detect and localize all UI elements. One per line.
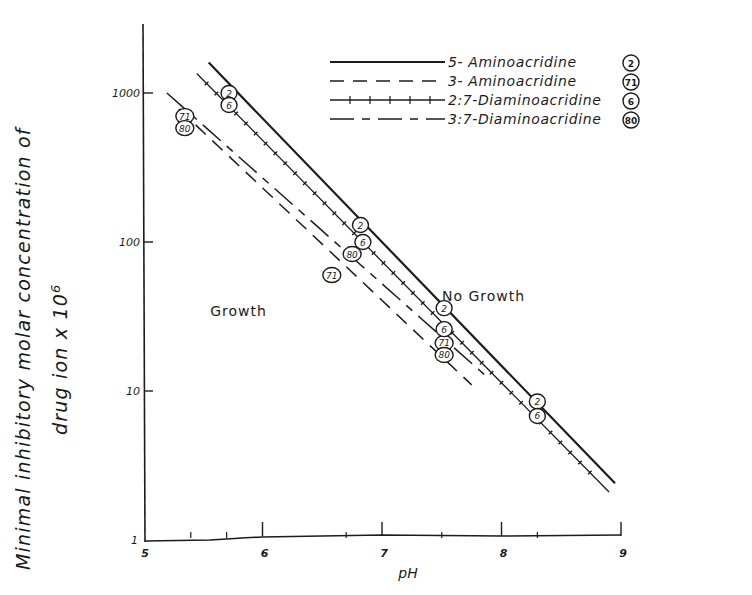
legend-item-2: 5- Aminoacridine2 xyxy=(330,54,639,71)
y-axis-line xyxy=(143,24,145,542)
point-markers: 22227171716666808080 xyxy=(176,86,546,424)
svg-text:80: 80 xyxy=(179,124,191,134)
legend-item-6: 2:7-Diaminoacridine6 xyxy=(330,92,639,109)
y-tick-label: 10 xyxy=(126,385,140,398)
svg-text:2: 2 xyxy=(534,397,540,407)
x-tick-label: 6 xyxy=(261,547,269,560)
y-tick-label: 1 xyxy=(131,534,138,547)
svg-text:6: 6 xyxy=(534,411,540,421)
legend-label: 3- Aminoacridine xyxy=(448,73,577,89)
point-marker-6: 6 xyxy=(221,98,237,113)
svg-text:2: 2 xyxy=(358,221,364,231)
y-axis-label-line1: Minimal inhibitory molar concentration o… xyxy=(12,127,34,570)
point-marker-6: 6 xyxy=(436,322,452,337)
x-axis-line xyxy=(145,535,621,541)
point-marker-80: 80 xyxy=(343,247,361,262)
point-marker-6: 6 xyxy=(529,408,545,423)
x-tick-label: 7 xyxy=(380,547,388,560)
legend-item-80: 3:7-Diaminoacridine80 xyxy=(330,111,639,128)
x-tick-label: 9 xyxy=(619,547,627,560)
y-axis-label-exponent: 6 xyxy=(48,283,63,292)
svg-text:6: 6 xyxy=(226,101,232,111)
point-marker-2: 2 xyxy=(352,218,368,233)
x-tick-label: 8 xyxy=(500,547,508,560)
legend-item-71: 3- Aminoacridine71 xyxy=(330,73,639,90)
point-marker-71: 71 xyxy=(323,268,341,283)
svg-text:71: 71 xyxy=(625,78,638,88)
point-marker-80: 80 xyxy=(435,347,453,362)
legend-label: 3:7-Diaminoacridine xyxy=(448,111,601,127)
svg-text:80: 80 xyxy=(438,350,450,360)
region-label-no-growth: No Growth xyxy=(442,288,525,304)
svg-text:71: 71 xyxy=(326,271,337,281)
point-marker-2: 2 xyxy=(529,394,545,409)
y-tick-label: 1000 xyxy=(112,87,140,100)
svg-text:2: 2 xyxy=(628,59,634,69)
point-marker-80: 80 xyxy=(176,121,194,136)
x-tick-label: 5 xyxy=(141,547,149,560)
svg-text:6: 6 xyxy=(628,97,634,107)
legend-label: 5- Aminoacridine xyxy=(448,54,577,70)
svg-text:6: 6 xyxy=(360,238,366,248)
svg-text:2: 2 xyxy=(441,304,447,314)
chart-canvas: 110100100056789pH22227171716666808080Gro… xyxy=(0,0,752,595)
y-axis-label-line2: drug ion x 106 xyxy=(48,283,71,435)
region-label-growth: Growth xyxy=(210,303,267,319)
x-axis-label: pH xyxy=(397,565,418,581)
svg-text:80: 80 xyxy=(346,250,358,260)
legend-label: 2:7-Diaminoacridine xyxy=(448,92,601,108)
svg-text:6: 6 xyxy=(441,325,447,335)
y-tick-label: 100 xyxy=(119,236,140,249)
series-line-71 xyxy=(179,109,472,385)
svg-text:80: 80 xyxy=(625,116,638,126)
legend: 5- Aminoacridine23- Aminoacridine712:7-D… xyxy=(330,54,639,128)
